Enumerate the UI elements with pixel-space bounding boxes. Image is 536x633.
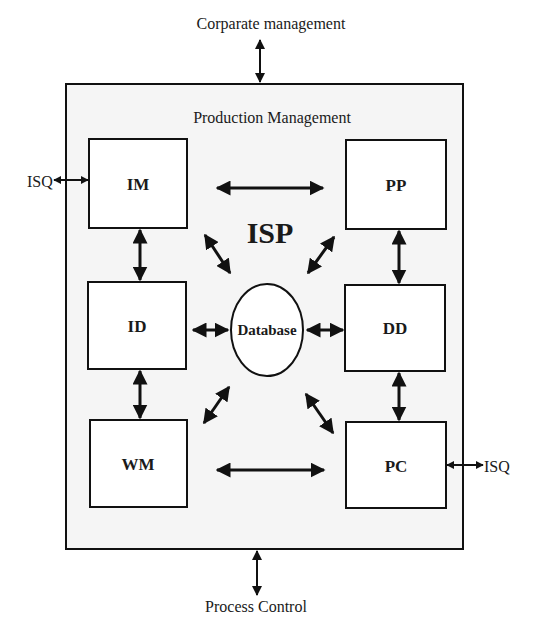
module-dd[interactable]: DD — [345, 285, 445, 371]
corporate-management-label: Corparate management — [197, 15, 346, 33]
module-pp-label: PP — [386, 176, 407, 195]
module-dd-label: DD — [383, 319, 408, 338]
process-control-label: Process Control — [205, 598, 307, 615]
module-im[interactable]: IM — [89, 139, 187, 228]
database-node[interactable]: Database — [231, 284, 303, 376]
isq-left-label: ISQ — [27, 173, 53, 190]
module-pc[interactable]: PC — [346, 422, 446, 508]
module-wm[interactable]: WM — [90, 420, 187, 507]
production-management-diagram: Corparate management Process Control ISQ… — [0, 0, 536, 633]
module-wm-label: WM — [121, 455, 154, 474]
module-im-label: IM — [127, 175, 150, 194]
production-management-title: Production Management — [193, 109, 351, 127]
module-pc-label: PC — [385, 457, 408, 476]
module-id-label: ID — [128, 317, 147, 336]
module-id[interactable]: ID — [88, 282, 186, 369]
isp-label: ISP — [247, 216, 294, 249]
module-pp[interactable]: PP — [346, 140, 446, 229]
database-label: Database — [237, 322, 297, 338]
isq-right-label: ISQ — [484, 458, 510, 475]
